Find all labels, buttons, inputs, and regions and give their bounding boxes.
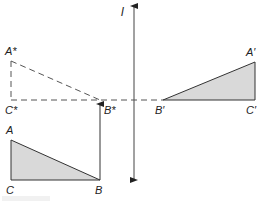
virtual-triangle-hypotenuse bbox=[11, 61, 100, 100]
label-c: C bbox=[6, 185, 14, 196]
figure-caption-faint bbox=[2, 196, 50, 201]
lens-diagram bbox=[0, 0, 263, 205]
label-c-prime: C′ bbox=[246, 105, 256, 116]
label-a-prime: A′ bbox=[246, 47, 255, 58]
label-c-star: C* bbox=[5, 105, 17, 116]
object-triangle bbox=[11, 140, 100, 180]
image-triangle bbox=[163, 62, 255, 100]
label-a: A bbox=[6, 125, 13, 136]
label-b-prime: B′ bbox=[155, 105, 164, 116]
lens-label: l bbox=[121, 6, 124, 18]
label-a-star: A* bbox=[5, 46, 17, 57]
label-b-star: B* bbox=[104, 105, 116, 116]
label-b: B bbox=[95, 185, 102, 196]
